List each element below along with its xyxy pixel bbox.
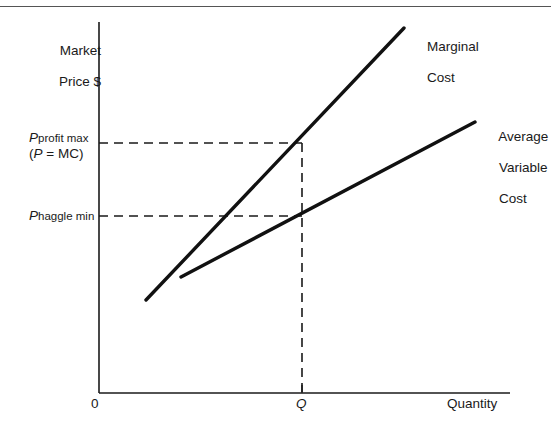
marginal-cost-curve [146, 28, 404, 300]
x-axis-title: Quantity [447, 396, 497, 412]
avc-label-line1: Average [498, 129, 548, 144]
avc-label-line2: Variable [499, 160, 548, 175]
profit-max-condition-rest: = MC) [43, 146, 84, 161]
y-axis-title-line1: Market [60, 43, 101, 58]
profit-max-symbol: P [29, 130, 38, 145]
quantity-tick-label: Q [296, 396, 307, 412]
haggle-min-subscript: haggle min [38, 210, 94, 222]
economics-cost-curve-figure: Market Price $ Marginal Cost Average Var… [0, 0, 551, 432]
origin-label: 0 [91, 396, 99, 412]
average-variable-cost-label: Average Variable Cost [484, 113, 548, 222]
marginal-cost-label-line2: Cost [427, 70, 455, 85]
y-axis-title: Market Price $ [44, 27, 101, 105]
price-label-profit-max: Pprofit max (P = MC) [29, 130, 89, 161]
price-label-haggle-min: Phaggle min [29, 208, 94, 224]
haggle-min-symbol: P [29, 208, 38, 223]
marginal-cost-label-line1: Marginal [427, 39, 479, 54]
y-axis-title-line2: Price $ [59, 74, 101, 89]
avc-label-line3: Cost [499, 191, 527, 206]
profit-max-subscript: profit max [38, 132, 89, 144]
marginal-cost-label: Marginal Cost [412, 23, 479, 101]
profit-max-condition-var: P [34, 146, 43, 161]
average-variable-cost-curve [181, 122, 475, 277]
